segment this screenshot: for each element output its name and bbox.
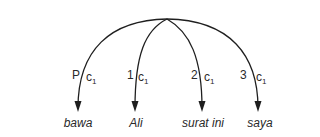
case-index: 1 [262,77,266,86]
relation-label-3: 3 [240,69,247,81]
case-index: 1 [92,77,96,86]
arc-to-saya [167,19,258,108]
relation-number: P [72,68,80,82]
relation-number: 1 [127,68,134,82]
case-index: 1 [144,77,148,86]
arrowhead-icon [75,101,82,112]
word-surat-ini: surat ini [182,117,224,129]
relation-case-label: c1 [86,71,96,86]
arrowhead-icon [199,101,206,112]
arrowhead-icon [255,101,262,112]
relation-case-label: c1 [204,71,214,86]
relation-number: 2 [191,68,198,82]
arrowhead-icon [132,101,139,112]
relation-label-2: 2 [191,69,198,81]
word-saya: saya [247,117,272,129]
arc-to-ali [135,19,167,108]
relation-number: 3 [240,68,247,82]
arc-to-surat-ini [167,19,202,108]
relation-label-1: 1 [127,69,134,81]
relation-case-label: c1 [138,71,148,86]
case-index: 1 [210,77,214,86]
relation-label-p: P [72,69,80,81]
word-bawa: bawa [64,117,93,129]
arc-to-bawa [78,19,167,108]
relation-case-label: c1 [256,71,266,86]
word-ali: Ali [129,117,142,129]
